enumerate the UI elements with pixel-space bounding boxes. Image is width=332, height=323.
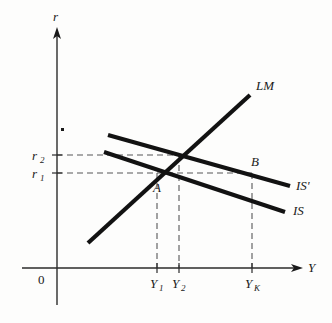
curves bbox=[88, 95, 290, 243]
ink-speck bbox=[61, 128, 64, 131]
x-tick-label-y1-base: Y bbox=[150, 276, 159, 291]
y-tick-label-r2-base: r bbox=[32, 148, 38, 163]
x-tick-label-yk: Y K bbox=[245, 276, 261, 293]
origin-label: 0 bbox=[38, 272, 45, 287]
is-lm-chart-canvas: r Y 0 r 2 r 1 Y 1 Y 2 Y K LM IS' IS bbox=[0, 0, 332, 323]
x-tick-label-yk-base: Y bbox=[245, 276, 254, 291]
x-tick-label-y1: Y 1 bbox=[150, 276, 164, 293]
x-tick-label-y2-sub: 2 bbox=[181, 283, 186, 293]
y-tick-label-r2-sub: 2 bbox=[40, 155, 45, 165]
point-label-b: B bbox=[251, 154, 259, 169]
x-tick-label-yk-sub: K bbox=[253, 283, 261, 293]
x-tick-label-y2-base: Y bbox=[172, 276, 181, 291]
axes bbox=[22, 27, 303, 305]
point-label-a: A bbox=[152, 180, 161, 195]
y-tick-label-r2: r 2 bbox=[32, 148, 45, 165]
curve-label-is-prime: IS' bbox=[295, 178, 310, 193]
x-tick-label-y2: Y 2 bbox=[172, 276, 186, 293]
isl-lm-figure: r Y 0 r 2 r 1 Y 1 Y 2 Y K LM IS' IS bbox=[0, 0, 332, 323]
y-axis-label: r bbox=[53, 9, 59, 24]
x-axis-label: Y bbox=[308, 260, 317, 275]
curve-label-is: IS bbox=[292, 203, 304, 218]
guide-lines bbox=[57, 155, 252, 268]
x-tick-label-y1-sub: 1 bbox=[159, 283, 164, 293]
y-tick-label-r1: r 1 bbox=[32, 166, 45, 183]
y-tick-label-r1-sub: 1 bbox=[40, 173, 45, 183]
curve-label-lm: LM bbox=[255, 78, 275, 93]
y-tick-label-r1-base: r bbox=[32, 166, 38, 181]
